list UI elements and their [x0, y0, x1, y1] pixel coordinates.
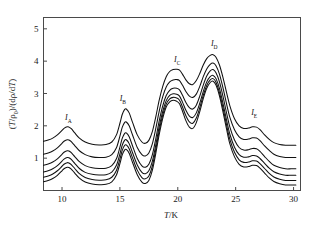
- y-tick-label: 3: [34, 89, 39, 99]
- x-tick-label: 20: [173, 194, 183, 204]
- peak-label-subscript: A: [68, 118, 72, 124]
- y-axis-label-close: ): [7, 79, 17, 82]
- y-axis-label-deriv: )/(dρ/d: [7, 86, 17, 111]
- figure-container: 1015202530 12345 IAIBICIDIE T/K (T/ρ0)/(…: [0, 0, 317, 236]
- x-axis-label-unit: /K: [169, 210, 179, 220]
- y-tick-label: 2: [34, 121, 39, 131]
- y-tick-label: 4: [34, 56, 39, 66]
- peak-label-subscript: C: [177, 60, 181, 66]
- y-tick-label: 1: [34, 153, 39, 163]
- x-tick-label: 30: [289, 194, 299, 204]
- svg-text:T/K: T/K: [164, 210, 179, 220]
- x-tick-label: 25: [231, 194, 241, 204]
- x-axis-label: T/K: [164, 210, 179, 220]
- chart-svg: 1015202530 12345 IAIBICIDIE T/K (T/ρ0)/(…: [0, 0, 317, 236]
- figure-background: [0, 0, 317, 236]
- peak-label-subscript: D: [214, 44, 218, 50]
- x-tick-label: 15: [115, 194, 125, 204]
- x-tick-label: 10: [58, 194, 68, 204]
- y-tick-label: 5: [34, 24, 39, 34]
- peak-label-subscript: B: [122, 99, 126, 105]
